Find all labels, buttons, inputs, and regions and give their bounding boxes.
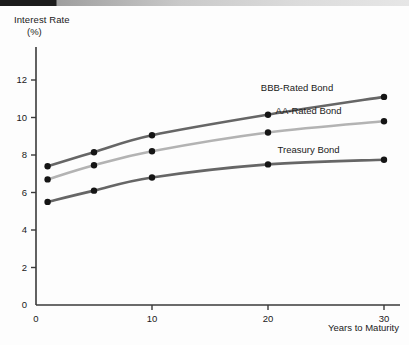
y-tick-label: 4 [22, 224, 27, 235]
x-tick-label: 20 [263, 313, 274, 324]
x-tick-label: 30 [379, 313, 390, 324]
data-point [265, 129, 271, 135]
y-tick-label: 0 [22, 299, 27, 310]
data-point [149, 132, 155, 138]
y-tick-label: 12 [16, 74, 27, 85]
data-point [91, 149, 97, 155]
data-point [381, 118, 387, 124]
interest-rate-yield-curve-chart: Interest Rate (%) Years to Maturity 0246… [0, 0, 409, 345]
x-tick-label: 0 [33, 313, 38, 324]
data-point [44, 176, 50, 182]
series-annotation: Treasury Bond [278, 144, 340, 155]
y-tick-label: 8 [22, 149, 27, 160]
y-tick-label: 6 [22, 187, 27, 198]
data-point [44, 163, 50, 169]
x-axis-tick-labels: 0102030 [33, 313, 389, 324]
data-point [91, 187, 97, 193]
series-annotation: AA-Rated Bond [276, 105, 342, 116]
data-point [381, 156, 387, 162]
data-point [381, 94, 387, 100]
series-labels: BBB-Rated BondAA-Rated BondTreasury Bond [261, 82, 342, 155]
data-point [91, 162, 97, 168]
x-tick-label: 10 [147, 313, 158, 324]
series-line [48, 160, 384, 202]
plot-area: 024681012 0102030 BBB-Rated BondAA-Rated… [0, 0, 409, 345]
data-point [265, 111, 271, 117]
data-point [265, 161, 271, 167]
y-tick-label: 2 [22, 262, 27, 273]
series-annotation: BBB-Rated Bond [261, 82, 333, 93]
data-point [44, 199, 50, 205]
data-point [149, 174, 155, 180]
y-tick-label: 10 [16, 112, 27, 123]
y-axis-tick-labels: 024681012 [16, 74, 27, 310]
data-point [149, 148, 155, 154]
